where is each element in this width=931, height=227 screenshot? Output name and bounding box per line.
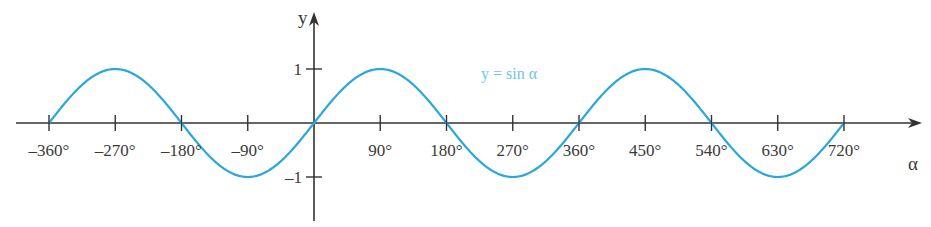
x-tick-label: 540° — [695, 141, 727, 160]
x-tick-label: –90° — [231, 141, 264, 160]
y-tick-label: –1 — [284, 168, 302, 187]
x-tick-label: 180° — [430, 141, 462, 160]
x-tick-label: 360° — [563, 141, 595, 160]
x-tick-label: –270° — [94, 141, 136, 160]
x-tick-label: 90° — [368, 141, 392, 160]
x-axis — [16, 118, 922, 128]
x-tick-label: 450° — [629, 141, 661, 160]
x-tick-label: 720° — [828, 141, 860, 160]
x-tick-label: 630° — [762, 141, 794, 160]
y-axis-label: y — [298, 7, 308, 28]
x-tick-label: –180° — [160, 141, 202, 160]
y-axis — [309, 12, 319, 221]
x-tick-label: –360° — [28, 141, 70, 160]
x-axis-label: α — [908, 153, 918, 174]
sine-chart: –360°–270°–180°–90°90°180°270°360°450°54… — [0, 0, 931, 227]
x-tick-label: 270° — [497, 141, 529, 160]
curve-label: y = sin α — [481, 65, 538, 83]
y-tick-label: 1 — [294, 60, 303, 79]
